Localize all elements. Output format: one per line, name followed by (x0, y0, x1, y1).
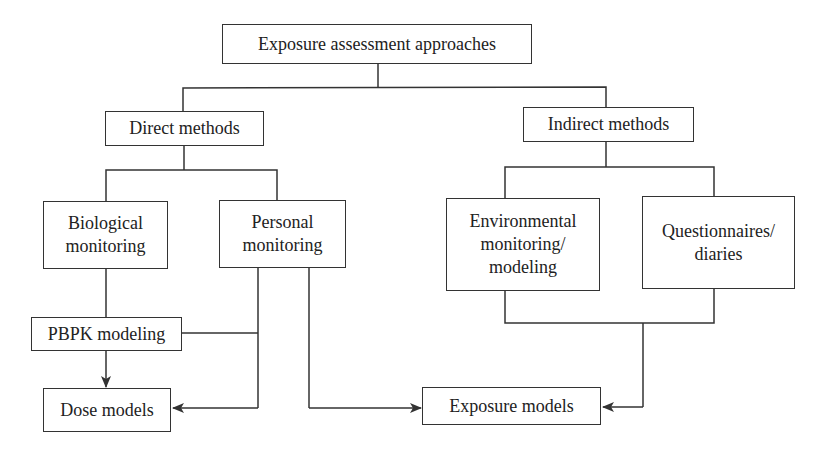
node-label: Dose models (60, 399, 154, 422)
node-questionnaires-diaries: Questionnaires/ diaries (642, 196, 795, 289)
node-exposure-assessment-approaches: Exposure assessment approaches (222, 24, 532, 64)
node-environmental-monitoring-modeling: Environmental monitoring/ modeling (446, 198, 600, 291)
node-exposure-models: Exposure models (422, 387, 601, 425)
node-direct-methods: Direct methods (105, 111, 264, 146)
node-label-line: modeling (489, 256, 557, 279)
node-label-line: monitoring/ (481, 233, 566, 256)
node-label-line: Biological (68, 212, 143, 235)
node-pbpk-modeling: PBPK modeling (31, 317, 182, 351)
node-label-line: monitoring (66, 235, 146, 258)
node-label: Exposure assessment approaches (258, 33, 496, 56)
node-biological-monitoring: Biological monitoring (43, 201, 168, 269)
node-label: Exposure models (449, 395, 573, 418)
node-label: Direct methods (129, 117, 239, 140)
node-dose-models: Dose models (43, 388, 171, 432)
node-label-line: Personal (252, 211, 314, 234)
node-indirect-methods: Indirect methods (523, 107, 694, 142)
node-personal-monitoring: Personal monitoring (219, 200, 346, 268)
node-label-line: Environmental (470, 210, 577, 233)
node-label-line: Questionnaires/ (662, 220, 775, 243)
node-label-line: diaries (695, 243, 743, 266)
node-label-line: monitoring (243, 234, 323, 257)
node-label: Indirect methods (548, 113, 669, 136)
node-label: PBPK modeling (48, 323, 166, 346)
